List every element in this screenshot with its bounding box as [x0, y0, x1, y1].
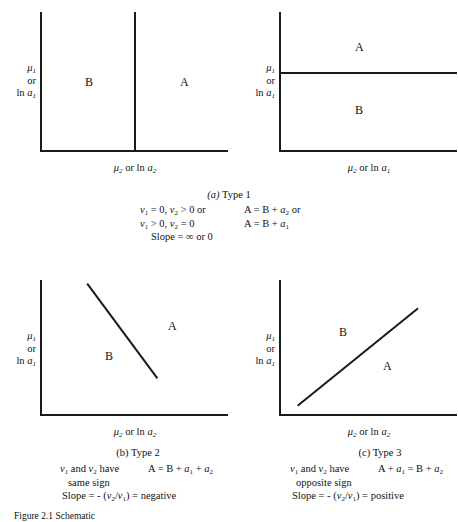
- panel-d-xlabel-a-sub: 2: [387, 431, 391, 439]
- caption-type2-eq-sub2: 2: [210, 468, 214, 476]
- panel-a-y-axis: [40, 12, 42, 151]
- panel-c-phase-boundary: [86, 283, 158, 379]
- caption-type1-cond1b: > 0 or: [181, 204, 206, 215]
- caption-type2-slope-lead: Slope = - (: [62, 490, 107, 501]
- caption-type3-eq-mid: = B +: [408, 463, 432, 474]
- panel-b-ylabel-mu-sub: 1: [272, 67, 276, 75]
- panel-a-region-b: B: [85, 76, 93, 88]
- panel-a-y-axis-label: μ1 or ln a1: [0, 62, 36, 100]
- caption-type2-cond-and: and: [71, 463, 86, 474]
- panel-c-region-a-label: A: [168, 319, 177, 333]
- panel-c-x-axis: [40, 414, 228, 416]
- panel-c-ylabel-mu-sub: 1: [33, 335, 37, 343]
- panel-b-ylabel-ln: ln: [255, 87, 263, 98]
- caption-type3-cond-sign: opposite sign: [296, 477, 352, 488]
- panel-c-ylabel-a-sub: 1: [33, 360, 37, 368]
- caption-type1-eq2-sub: 1: [286, 223, 290, 231]
- caption-type1-cond2a: > 0,: [151, 218, 167, 229]
- panel-d-region-b: B: [339, 326, 347, 338]
- panel-b-phase-boundary: [279, 72, 457, 74]
- panel-c-xlabel-or: or ln: [125, 426, 145, 437]
- panel-a-xlabel-mu-sub: 2: [119, 167, 123, 175]
- panel-b-region-b: B: [355, 104, 363, 116]
- panel-b-x-axis: [279, 150, 457, 152]
- panel-a-region-b-label: B: [85, 75, 93, 89]
- caption-type1-conditions: ν1 = 0, ν2 > 0 or ν1 > 0, ν2 = 0: [140, 203, 206, 232]
- panel-a-region-a-label: A: [180, 75, 189, 89]
- panel-d-x-axis: [279, 414, 457, 416]
- caption-type1-eq2: A = B +: [244, 218, 278, 229]
- panel-d-xlabel-or: or ln: [359, 426, 379, 437]
- caption-type2-conditions: ν1 and ν2 have same sign: [60, 462, 119, 490]
- panel-c-region-a: A: [168, 320, 177, 332]
- panel-a-xlabel-a-sub: 2: [153, 167, 157, 175]
- caption-type1-title: (a) (a) Type 1 Type 1: [149, 189, 309, 200]
- panel-a-ylabel-ln: ln: [16, 87, 24, 98]
- panel-b-ylabel-a-sub: 1: [272, 92, 276, 100]
- caption-type3-eq-lead: A +: [378, 463, 394, 474]
- figure-caption-text: Figure 2.1 Schematic: [14, 511, 95, 521]
- panel-b-ylabel-or: or: [237, 75, 275, 87]
- panel-d-x-axis-label: μ2 or ln a2: [294, 426, 444, 439]
- panel-a-phase-boundary: [134, 12, 136, 151]
- panel-d-y-axis: [279, 280, 281, 415]
- panel-a-ylabel-or: or: [0, 75, 36, 87]
- panel-d-ylabel-ln: ln: [255, 355, 263, 366]
- panel-a-ylabel-mu-sub: 1: [33, 67, 37, 75]
- panel-b-region-b-label: B: [355, 103, 363, 117]
- panel-type-3: B A μ1 or ln a1 μ2 or ln a2: [229, 250, 458, 445]
- panel-type-1-a: B A μ1 or ln a1 μ2 or ln a2: [0, 0, 229, 185]
- caption-type1-title-text: Type 1: [222, 189, 251, 200]
- caption-type2-eq-plus: +: [196, 463, 202, 474]
- caption-type2-equation: A = B + a1 + a2: [148, 462, 213, 476]
- caption-type3-title-text: (c) Type 3: [359, 447, 402, 458]
- panel-d-ylabel-or: or: [237, 343, 275, 355]
- panel-d-ylabel-mu-sub: 1: [272, 335, 276, 343]
- caption-type3-title: (c) Type 3: [320, 447, 440, 458]
- panel-a-ylabel-a-sub: 1: [33, 92, 37, 100]
- panel-c-xlabel-mu-sub: 2: [119, 431, 123, 439]
- panel-c-y-axis-label: μ1 or ln a1: [0, 330, 36, 368]
- panel-d-region-a: A: [383, 360, 392, 372]
- panel-c-xlabel-a-sub: 2: [153, 431, 157, 439]
- caption-type2-cond-sign: same sign: [68, 477, 110, 488]
- panel-b-x-axis-label: μ2 or ln a1: [294, 162, 444, 175]
- panel-b-region-a: A: [355, 41, 364, 53]
- caption-type2-cond-have: have: [99, 463, 119, 474]
- caption-type1-eq1-sub: 2: [286, 209, 290, 217]
- caption-type3-eq-sub1: 1: [401, 468, 405, 476]
- caption-type1-cond1a: = 0,: [151, 204, 167, 215]
- caption-type3-cond-have: have: [329, 463, 349, 474]
- panel-d-ylabel-a-sub: 1: [272, 360, 276, 368]
- caption-type1-slope: Slope = ∞ or 0: [151, 230, 213, 243]
- panel-type-2: B A μ1 or ln a1 μ2 or ln a2: [0, 250, 229, 445]
- panel-a-region-a: A: [180, 76, 189, 88]
- caption-type3-equation: A + a1 = B + a2: [378, 462, 443, 476]
- panel-b-y-axis: [279, 12, 281, 151]
- panel-c-region-b-label: B: [105, 349, 113, 363]
- caption-type1-eq1: A = B +: [244, 204, 278, 215]
- panel-type-1-b: A B μ1 or ln a1 μ2 or ln a1: [229, 0, 458, 185]
- caption-type1-eq1-tail: or: [292, 204, 301, 215]
- panel-a-xlabel-or: or ln: [125, 162, 145, 173]
- panel-c-x-axis-label: μ2 or ln a2: [60, 426, 210, 439]
- panel-c-region-b: B: [105, 350, 113, 362]
- panel-d-region-b-label: B: [339, 325, 347, 339]
- caption-type3-conditions: ν1 and ν2 have opposite sign: [290, 462, 352, 490]
- panel-b-xlabel-or: or ln: [359, 162, 379, 173]
- panel-d-y-axis-label: μ1 or ln a1: [237, 330, 275, 368]
- panel-b-xlabel-a-sub: 1: [387, 167, 391, 175]
- panel-c-ylabel-or: or: [0, 343, 36, 355]
- panel-d-phase-boundary: [297, 307, 419, 406]
- caption-type3-eq-sub2: 2: [440, 468, 444, 476]
- caption-type2-eq-lead: A = B +: [148, 463, 182, 474]
- caption-type2-slope: Slope = - (ν2/ν1) = negative: [62, 489, 176, 503]
- caption-type2-eq-sub1: 1: [190, 468, 194, 476]
- panel-d-xlabel-mu-sub: 2: [353, 431, 357, 439]
- panel-c-ylabel-ln: ln: [16, 355, 24, 366]
- caption-type2-slope-tail: ) = negative: [126, 490, 176, 501]
- figure-caption: Figure 2.1 Schematic: [14, 511, 95, 522]
- panel-c-y-axis: [40, 280, 42, 415]
- caption-type2-title: (b) Type 2: [78, 447, 198, 458]
